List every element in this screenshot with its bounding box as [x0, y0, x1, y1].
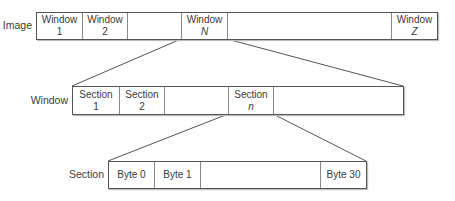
- cell-byte-1: Byte 1: [155, 162, 201, 188]
- cell-index: N: [201, 26, 208, 38]
- cell-title: Byte 0: [117, 169, 145, 181]
- cell-index: Z: [411, 26, 417, 38]
- cell-section-2: Section 2: [120, 87, 165, 114]
- cell-byte-0: Byte 0: [109, 162, 155, 188]
- connector-window-n-left: [72, 39, 181, 86]
- cell-byte-30: Byte 30: [321, 162, 366, 188]
- cell-title: Byte 1: [163, 169, 191, 181]
- cell-title: Byte 30: [327, 169, 361, 181]
- cell-title: Window: [87, 14, 123, 26]
- cell-section-1: Section 1: [73, 87, 120, 114]
- cell-window-1: Window 1: [37, 13, 83, 39]
- cell-title: Window: [187, 14, 223, 26]
- cell-index: n: [248, 101, 254, 113]
- cell-section-n: Section n: [229, 87, 274, 114]
- cell-title: Section: [125, 89, 158, 101]
- cell-gap: [228, 13, 392, 39]
- connector-section-n-left: [108, 114, 228, 161]
- cell-window-z: Window Z: [392, 13, 437, 39]
- cell-window-2: Window 2: [83, 13, 128, 39]
- cell-title: Section: [79, 89, 112, 101]
- connector-section-n-right: [273, 114, 366, 161]
- cell-index: 1: [93, 101, 99, 113]
- cell-gap: [274, 87, 403, 114]
- cell-title: Window: [397, 14, 433, 26]
- cell-gap: [201, 162, 321, 188]
- cell-index: 2: [102, 26, 108, 38]
- section-row: Byte 0 Byte 1 Byte 30: [108, 161, 367, 189]
- cell-title: Section: [234, 89, 267, 101]
- cell-index: 2: [139, 101, 145, 113]
- cell-index: 1: [57, 26, 63, 38]
- level-label-section: Section: [0, 168, 104, 180]
- cell-gap: [165, 87, 229, 114]
- connector-window-n-right: [227, 39, 403, 86]
- window-row: Section 1 Section 2 Section n: [72, 86, 404, 115]
- cell-window-n: Window N: [182, 13, 228, 39]
- level-label-image: Image: [0, 19, 32, 31]
- level-label-window: Window: [0, 94, 68, 106]
- cell-title: Window: [42, 14, 78, 26]
- cell-gap: [128, 13, 182, 39]
- image-row: Window 1 Window 2 Window N Window Z: [36, 12, 438, 40]
